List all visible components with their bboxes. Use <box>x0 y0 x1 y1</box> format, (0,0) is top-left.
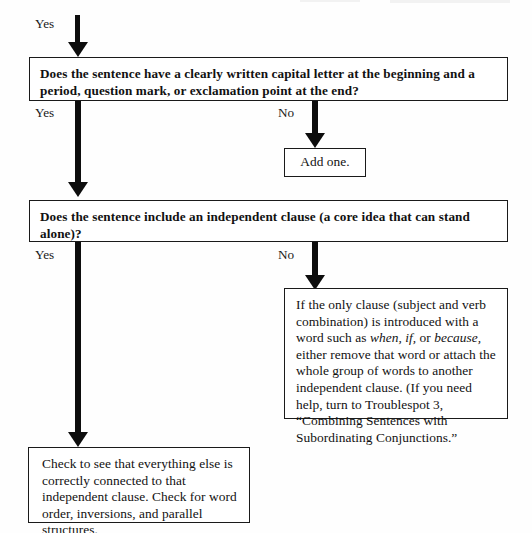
scan-artifact <box>390 0 510 3</box>
arrow-entry-head <box>68 42 88 57</box>
subord-italic-when: when, <box>370 330 402 345</box>
arrow-q2-yes-head <box>68 432 88 447</box>
arrow-q2-yes-shaft <box>75 242 81 432</box>
subord-text-3: or <box>416 330 434 345</box>
branch-label-q1-yes: Yes <box>35 105 54 121</box>
arrow-q2-no-shaft <box>312 242 318 275</box>
arrow-q1-no-shaft <box>312 101 318 133</box>
scan-artifact <box>300 0 360 2</box>
arrow-entry-shaft <box>75 15 80 45</box>
branch-label-q1-no: No <box>278 105 294 121</box>
decision-box-question-2: Does the sentence include an independent… <box>29 200 508 242</box>
branch-label-q2-no: No <box>278 247 294 263</box>
branch-label-q2-yes: Yes <box>35 247 54 263</box>
action-box-check-connections: Check to see that everything else is cor… <box>28 447 250 523</box>
arrow-q1-no-head <box>305 133 325 148</box>
subord-text-4: either remove that word or attach the wh… <box>296 347 496 445</box>
branch-label-entry-yes: Yes <box>35 16 54 32</box>
action-box-add-one: Add one. <box>284 148 366 177</box>
flowchart-canvas: Yes Does the sentence have a clearly wri… <box>0 0 532 533</box>
action-box-subordinating-clause: If the only clause (subject and verb com… <box>284 288 508 419</box>
subord-italic-because: because, <box>434 330 481 345</box>
decision-box-question-1: Does the sentence have a clearly written… <box>29 57 508 101</box>
arrow-q1-yes-shaft <box>75 101 81 182</box>
arrow-q1-yes-head <box>68 182 88 197</box>
subord-italic-if: if, <box>405 330 416 345</box>
